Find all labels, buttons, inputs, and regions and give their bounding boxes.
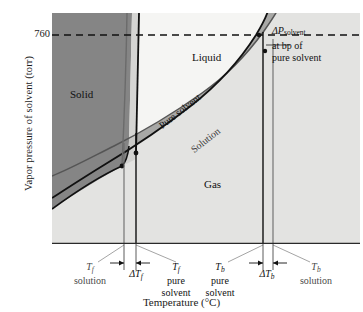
- annotation-delta-p-line3: pure solvent: [272, 52, 362, 65]
- label-delta-tb: ΔTb: [248, 268, 286, 282]
- annotation-delta-p: ΔPsolvent at bp of pure solvent: [272, 25, 362, 65]
- label-delta-tb-sym: ΔT: [259, 268, 270, 279]
- label-tb-pure-sym: Tb: [196, 261, 244, 275]
- label-tb-solution: Tb solution: [288, 261, 344, 287]
- arrowhead-dtf-right: [136, 261, 141, 266]
- point-deltaP-solution: [263, 49, 267, 53]
- label-tf-pure-sym: Tf: [152, 261, 200, 275]
- label-tf-solution-line2: solution: [62, 275, 118, 287]
- annotation-delta-p-subscript: solvent: [284, 28, 306, 37]
- label-tf-solution-subscript: f: [92, 265, 94, 274]
- label-delta-tf-subscript: f: [141, 272, 143, 281]
- label-tb-solution-subscript: b: [317, 265, 321, 274]
- label-tb-solution-line2: solution: [288, 275, 344, 287]
- x-axis-label: Temperature (°C): [0, 296, 363, 308]
- label-tb-pure-line2: pure: [196, 275, 244, 287]
- label-tb-pure-subscript: b: [221, 265, 225, 274]
- arrowhead-dtb-left: [258, 261, 263, 266]
- point-bp-pure-solvent: [257, 33, 261, 37]
- annotation-delta-p-symbol: ΔP: [272, 25, 284, 36]
- region-label-gas: Gas: [204, 178, 221, 190]
- label-delta-tf: ΔTf: [117, 268, 155, 282]
- leader-tb-solution: [273, 245, 310, 262]
- leader-tb-pure: [228, 245, 263, 262]
- bottom-label-block: Tf solution ΔTf Tf pure solvent Tb pure …: [0, 244, 363, 300]
- label-tb-pure-solvent: Tb pure solvent: [196, 261, 244, 298]
- label-tf-pure-line2: pure: [152, 275, 200, 287]
- label-tf-solution: Tf solution: [62, 261, 118, 287]
- region-label-liquid: Liquid: [192, 51, 221, 63]
- y-axis-label: Vapor pressure of solvent (torr): [23, 18, 34, 230]
- annotation-delta-p-line1: ΔPsolvent: [272, 25, 362, 40]
- arrowhead-dtb-right: [273, 261, 278, 266]
- leader-tf-solution: [98, 245, 124, 262]
- label-tf-pure-subscript: f: [178, 265, 180, 274]
- label-delta-tb-subscript: b: [271, 272, 275, 281]
- y-tick-760: 760: [8, 28, 50, 39]
- annotation-delta-p-line2: at bp of: [272, 40, 362, 53]
- label-tb-solution-sym: Tb: [288, 261, 344, 275]
- leader-tf-pure: [136, 245, 176, 262]
- phase-diagram-figure: Vapor pressure of solvent (torr) 760: [0, 0, 363, 312]
- label-delta-tf-sym: ΔT: [129, 268, 140, 279]
- label-tf-pure-solvent: Tf pure solvent: [152, 261, 200, 298]
- arrowhead-dtf-left: [119, 261, 124, 266]
- label-tf-solution-sym: Tf: [62, 261, 118, 275]
- region-label-solid: Solid: [70, 88, 93, 100]
